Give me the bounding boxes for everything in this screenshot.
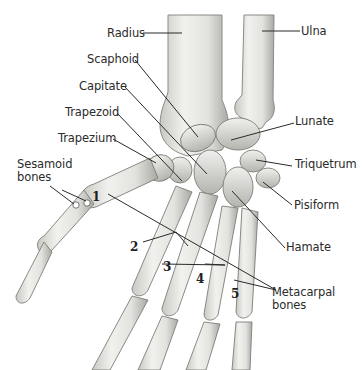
- label-pisiform: Pisiform: [294, 199, 339, 212]
- label-metacarpal-line2: bones: [272, 299, 306, 312]
- pisiform-bone: [256, 168, 280, 188]
- hand-skeleton-illustration: [0, 0, 362, 370]
- metacarpal-number-5: 5: [231, 287, 239, 301]
- label-capitate: Capitate: [79, 80, 127, 93]
- label-trapezoid: Trapezoid: [65, 106, 119, 119]
- capitate-bone: [194, 150, 226, 194]
- label-trapezium: Trapezium: [58, 132, 116, 145]
- label-triquetrum: Triquetrum: [295, 158, 357, 171]
- hamate-bone: [223, 167, 253, 207]
- middle-proximal-phalanx: [138, 316, 178, 370]
- label-scaphoid: Scaphoid: [87, 53, 139, 66]
- thumb-distal-phalanx: [16, 242, 52, 303]
- metacarpal-5: [236, 208, 258, 318]
- hand-bones-diagram: Radius Ulna Scaphoid Capitate Trapezoid …: [0, 0, 362, 370]
- ring-proximal-phalanx: [186, 322, 220, 370]
- metacarpal-number-4: 4: [196, 272, 204, 286]
- metacarpal-4: [204, 206, 238, 320]
- metacarpal-number-3: 3: [163, 260, 171, 274]
- little-proximal-phalanx: [232, 322, 252, 370]
- label-hamate: Hamate: [286, 241, 331, 254]
- label-ulna: Ulna: [301, 25, 327, 38]
- index-proximal-phalanx: [92, 296, 148, 370]
- label-lunate: Lunate: [295, 115, 334, 128]
- label-radius: Radius: [107, 27, 145, 40]
- label-sesamoid-line2: bones: [17, 171, 51, 184]
- sesamoid-bone-1: [73, 202, 79, 208]
- metacarpal-number-1: 1: [92, 190, 100, 204]
- ulna-bone: [235, 15, 275, 129]
- metacarpal-number-2: 2: [130, 240, 138, 254]
